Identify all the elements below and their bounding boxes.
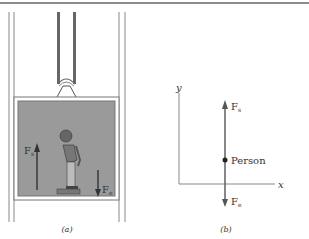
label-Fs-b: Fs: [231, 101, 241, 113]
caption-a: (a): [61, 225, 72, 234]
person-point: [223, 158, 228, 163]
elevator-cables: [57, 12, 76, 97]
label-Fe-b: Fe: [231, 196, 242, 208]
y-axis-label: y: [175, 82, 182, 93]
x-axis-label: x: [278, 179, 284, 190]
caption-b: (b): [220, 225, 231, 234]
free-body-diagram-figure: Fs Fe (a) y x Fs Person Fe (b): [0, 0, 309, 239]
force-arrow-Fs-b: [222, 100, 228, 160]
label-person: Person: [231, 155, 266, 166]
